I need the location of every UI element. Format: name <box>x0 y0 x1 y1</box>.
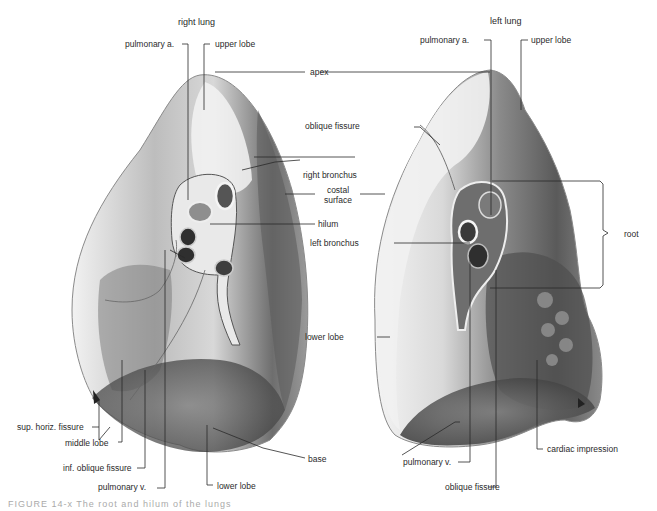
label-root: root <box>624 229 639 239</box>
right-pulmonary-vein-section-3 <box>215 260 233 276</box>
label-left-pulmonary-artery: pulmonary a. <box>420 35 469 45</box>
label-sup-horiz-fissure: sup. horiz. fissure <box>17 422 84 432</box>
label-left-bronchus: left bronchus <box>310 238 359 248</box>
lung-illustration <box>0 0 657 511</box>
label-right-pulmonary-vein: pulmonary v. <box>98 482 146 492</box>
right-pulmonary-artery-section <box>188 202 212 222</box>
label-right-pulmonary-artery: pulmonary a. <box>125 39 174 49</box>
right-bronchus-section <box>216 183 234 209</box>
label-left-oblique-fissure-top: oblique fissure <box>305 121 360 131</box>
left-pulmonary-vein-section <box>468 244 488 268</box>
label-costal-line2: surface <box>318 195 358 205</box>
label-inf-oblique-fissure: inf. oblique fissure <box>63 463 132 473</box>
figure-caption: FIGURE 14-x The root and hilum of the lu… <box>8 499 231 509</box>
label-right-lower-lobe: lower lobe <box>217 481 256 491</box>
label-base: base <box>308 454 326 464</box>
left-pulmonary-artery-section <box>479 192 501 218</box>
label-costal-line1: costal <box>318 185 358 195</box>
label-left-upper-lobe: upper lobe <box>531 35 571 45</box>
label-apex: apex <box>310 67 328 77</box>
label-left-oblique-fissure-bottom: oblique fissure <box>445 482 500 492</box>
left-lung <box>375 70 602 447</box>
right-lung-title: right lung <box>178 17 215 27</box>
label-right-upper-lobe: upper lobe <box>215 39 255 49</box>
label-cardiac-impression: cardiac impression <box>547 444 618 454</box>
label-left-pulmonary-vein: pulmonary v. <box>403 457 451 467</box>
lung-anatomy-figure: right lung left lung pulmonary a. upper … <box>0 0 657 511</box>
label-left-lower-lobe: lower lobe <box>305 332 344 342</box>
label-costal-surface: costal surface <box>318 185 358 205</box>
left-lung-title: left lung <box>490 16 522 26</box>
label-right-bronchus: right bronchus <box>303 170 357 180</box>
label-middle-lobe: middle lobe <box>65 438 108 448</box>
label-hilum: hilum <box>318 219 338 229</box>
left-bronchus-section <box>459 221 477 243</box>
right-pulmonary-vein-section-1 <box>180 228 196 246</box>
right-lung <box>72 75 308 452</box>
